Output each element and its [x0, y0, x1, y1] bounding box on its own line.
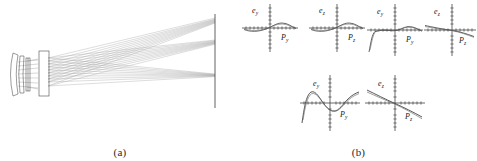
panel-aberration-plots: e y P y	[240, 0, 477, 161]
plot-ey-py-row1-right: e y P y	[367, 4, 423, 56]
plot-ey-py-row2: e y P y	[300, 75, 360, 131]
plot5-y-label-sub: y	[316, 83, 320, 89]
plot-ez-pz-row1-right: e z P z	[424, 4, 476, 56]
lens-element-rear	[39, 51, 49, 96]
plot-ez-pz-row1-left: e z P z	[309, 4, 365, 52]
ray-bundle-axial	[48, 58, 215, 86]
plot2-x-label-sub: z	[352, 37, 356, 43]
plot-ey-py-row1-left: e y P y	[242, 4, 298, 52]
aberration-plots-svg: e y P y	[240, 0, 477, 140]
plot4-x-label-sub: z	[463, 40, 467, 46]
lens-element-third	[26, 58, 30, 91]
plot2-y-label-sub: z	[322, 10, 326, 16]
plot3-x-label-sub: y	[410, 39, 414, 45]
caption-panel-a: (a)	[0, 146, 240, 158]
plot6-y-label-sub: z	[381, 83, 385, 89]
plot3-y-label-sub: y	[380, 11, 384, 17]
plot6-x-label-sub: z	[409, 116, 413, 122]
caption-panel-b: (b)	[240, 146, 477, 158]
plot5-x-label-sub: y	[344, 114, 348, 120]
plot1-x-label-sub: y	[285, 37, 289, 43]
panel-optical-diagram: (a)	[0, 0, 240, 161]
plot1-y-label-sub: y	[255, 10, 259, 16]
figure-root: (a)	[0, 0, 477, 161]
optical-ray-svg	[0, 0, 240, 140]
lens-element-front	[11, 53, 19, 96]
plot4-y-label-sub: z	[437, 11, 441, 17]
plot-ez-pz-row2: e z P z	[365, 75, 425, 131]
